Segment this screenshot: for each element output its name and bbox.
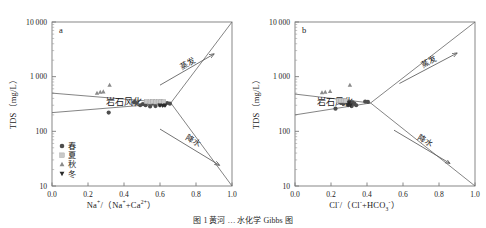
y-tick-label: 10 000	[269, 18, 290, 27]
plot-area-a: 0.00.20.40.60.81.0101001 00010 000蒸发降水岩石…	[0, 0, 243, 228]
series-冬	[158, 104, 167, 108]
data-point-triangle-up	[101, 89, 105, 93]
chart-panel-b: 0.00.20.40.60.81.0101001 00010 000蒸发降水岩石…	[243, 0, 486, 228]
data-point-circle	[333, 107, 337, 111]
data-point-triangle-up	[323, 90, 327, 94]
legend-label-春: 春	[68, 141, 76, 151]
data-point-square	[162, 100, 166, 104]
data-point-circle	[354, 103, 358, 107]
arrow-label-降水: 降水	[416, 132, 435, 149]
data-point-square	[60, 153, 65, 158]
data-point-circle	[366, 100, 370, 104]
x-axis-title-b: Cl-/（Cl-+HCO3-）	[243, 198, 486, 210]
data-point-triangle-up	[328, 89, 332, 93]
series-夏	[336, 98, 347, 103]
y-tick-label: 10	[282, 182, 290, 191]
series-夏	[144, 99, 165, 104]
gibbs-figure: 0.00.20.40.60.81.0101001 00010 000蒸发降水岩石…	[0, 0, 486, 228]
gibbs-envelope-lower	[295, 103, 475, 186]
data-point-circle	[135, 101, 139, 105]
x-axis-title-a: Na+/（Na++Ca2+）	[0, 198, 243, 210]
series-秋	[320, 83, 352, 95]
arrow-label-降水: 降水	[184, 132, 203, 149]
y-tick-label: 10 000	[26, 18, 47, 27]
plot-area-b: 0.00.20.40.60.81.0101001 00010 000蒸发降水岩石…	[243, 0, 486, 228]
series-秋	[95, 83, 112, 95]
data-point-circle	[60, 144, 65, 149]
gibbs-envelope-lower	[52, 103, 232, 186]
y-axis-title-a: TDS（mg/L）	[6, 56, 18, 148]
y-tick-label: 10	[39, 182, 47, 191]
y-tick-label: 100	[279, 127, 291, 136]
y-tick-label: 1 000	[30, 72, 47, 81]
figure-caption: 图 1 黄河 … 水化学 Gibbs 图	[0, 214, 486, 228]
chart-panel-a: 0.00.20.40.60.81.0101001 00010 000蒸发降水岩石…	[0, 0, 243, 228]
arrow-label-蒸发: 蒸发	[419, 53, 438, 69]
data-point-circle	[168, 102, 172, 106]
y-tick-label: 100	[36, 127, 48, 136]
legend: 春夏秋冬	[60, 141, 76, 179]
y-axis-title-b: TDS（mg/L）	[249, 56, 261, 148]
panel-tag-b: b	[302, 25, 306, 35]
legend-label-冬: 冬	[68, 169, 76, 179]
data-point-triangle-down	[60, 172, 65, 176]
gibbs-envelope-upper	[52, 22, 232, 103]
data-point-triangle-up	[348, 83, 352, 87]
data-point-triangle-up	[107, 83, 111, 87]
data-point-circle	[153, 104, 157, 108]
data-point-triangle-up	[60, 162, 65, 166]
data-point-square	[343, 99, 347, 103]
legend-label-夏: 夏	[68, 151, 76, 160]
data-point-circle	[107, 111, 111, 115]
panel-tag-a: a	[59, 25, 63, 35]
data-point-triangle-up	[95, 91, 99, 95]
y-tick-label: 1 000	[273, 72, 290, 81]
legend-label-秋: 秋	[68, 159, 76, 169]
